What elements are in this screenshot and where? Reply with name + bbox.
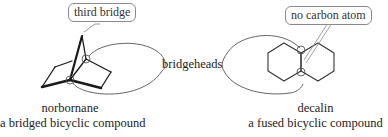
no-carbon-atom-callout: no carbon atom [285,6,372,25]
right-bridgehead-loop [222,36,303,94]
decalin-caption: decalin a fused bicyclic compound [243,101,388,131]
third-bridge-pointer [84,24,100,32]
decalin-name: decalin [243,101,388,116]
norbornane-caption: norbornane a bridged bicyclic compound [0,101,140,131]
decalin-structure [268,43,334,81]
bicyclic-compounds-diagram: third bridge no carbon atom bridgeheads … [0,0,388,137]
third-bridge-callout: third bridge [68,3,136,22]
bridgeheads-label: bridgeheads [162,57,222,71]
norbornane-name: norbornane [0,101,140,116]
norbornane-description: a bridged bicyclic compound [0,116,140,131]
left-bridgehead-loop [73,43,165,94]
decalin-description: a fused bicyclic compound [243,116,388,131]
norbornane-structure [42,36,111,88]
